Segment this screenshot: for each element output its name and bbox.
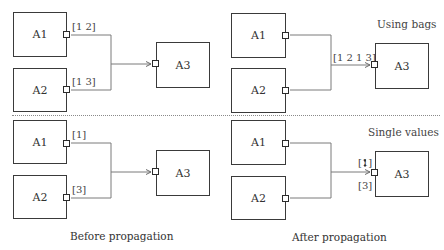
overwritten-value-label: [1]	[358, 158, 372, 168]
block-a3-bottom-left: A3	[156, 150, 210, 196]
block-a2-bottom-left: A2	[13, 175, 67, 219]
block-a2-top-left: A2	[13, 68, 67, 112]
section-divider	[12, 115, 440, 116]
output-port-a2-bottom-right	[282, 195, 289, 202]
block-label: A2	[251, 192, 266, 205]
block-a3-top-left: A3	[156, 42, 210, 88]
block-label: A1	[33, 136, 48, 149]
block-label: A3	[176, 167, 191, 180]
output-port-a1-top-left	[63, 31, 70, 38]
propagation-diagram: A1 [1 2] A2 [1 3] A3 Using bags A1 A2 [1…	[0, 0, 444, 250]
block-label: A2	[251, 84, 266, 97]
bracket-close: ]	[368, 157, 372, 168]
current-value-label: [3]	[358, 181, 372, 191]
port-label-a1-bottom-left: [1]	[72, 130, 86, 140]
output-port-a2-top-left	[63, 86, 70, 93]
block-a1-top-right: A1	[231, 13, 286, 58]
port-label-a2-bottom-left: [3]	[72, 185, 86, 195]
output-port-a1-bottom-right	[282, 140, 289, 147]
port-label-a1-top-left: [1 2]	[72, 22, 96, 32]
bag-input-label: [1 2 1 3]	[333, 53, 376, 63]
output-port-a2-bottom-left	[63, 194, 70, 201]
block-label: A3	[395, 168, 410, 181]
input-port-a3-bottom-left	[152, 168, 159, 175]
output-port-a1-bottom-left	[63, 140, 70, 147]
struck-value: 1	[362, 158, 368, 168]
block-label: A3	[176, 59, 191, 72]
port-label-a2-top-left: [1 3]	[72, 77, 96, 87]
panel-title-using-bags: Using bags	[377, 19, 437, 30]
block-a1-bottom-left: A1	[13, 120, 67, 164]
block-label: A3	[395, 60, 410, 73]
input-port-a3-top-right	[371, 61, 378, 68]
block-label: A1	[33, 28, 48, 41]
input-port-a3-top-left	[152, 60, 159, 67]
block-label: A2	[33, 84, 48, 97]
output-port-a2-top-right	[282, 87, 289, 94]
block-a1-top-left: A1	[13, 12, 67, 57]
block-label: A1	[251, 136, 266, 149]
block-a3-top-right: A3	[375, 43, 429, 89]
panel-title-single-values: Single values	[368, 127, 439, 138]
block-a2-bottom-right: A2	[231, 176, 286, 220]
block-a3-bottom-right: A3	[375, 151, 429, 197]
input-port-a3-bottom-right	[371, 169, 378, 176]
block-a1-bottom-right: A1	[231, 120, 286, 165]
block-label: A2	[33, 191, 48, 204]
block-label: A1	[251, 29, 266, 42]
caption-after-propagation: After propagation	[292, 232, 387, 243]
output-port-a1-top-right	[282, 32, 289, 39]
block-a2-top-right: A2	[231, 68, 286, 113]
caption-before-propagation: Before propagation	[70, 231, 173, 242]
